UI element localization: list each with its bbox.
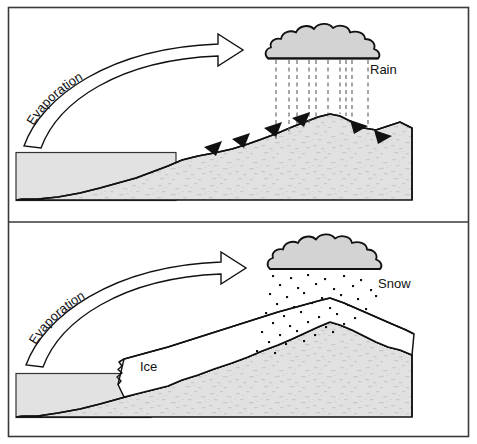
cloud-icon-bottom [268, 234, 382, 269]
cloud-icon [266, 24, 380, 59]
curved-arrow-icon [24, 34, 243, 148]
snow-panel: Ice [16, 234, 414, 417]
water-cycle-diagram: Evaporation Rain Ice [0, 0, 477, 444]
ice-label: Ice [140, 359, 157, 374]
rain-label: Rain [370, 62, 397, 77]
diagram-canvas: Evaporation Rain Ice [0, 0, 477, 444]
snow-label: Snow [378, 276, 411, 291]
rain-panel: Evaporation Rain [16, 24, 412, 201]
